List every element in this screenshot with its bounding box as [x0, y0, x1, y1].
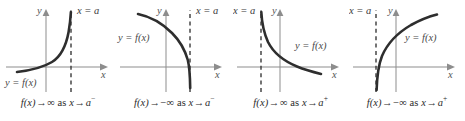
caption-as: as: [410, 97, 419, 108]
caption-arrow-1: →: [149, 97, 161, 108]
caption-arrow-1: →: [268, 97, 280, 108]
y-axis: [163, 9, 170, 92]
caption-arrow-2: →: [74, 97, 86, 108]
asymptote-label: x = a: [349, 5, 371, 16]
x-axis-label: x: [214, 69, 220, 80]
panel-4-caption: f(x)→−∞ as x→a+: [349, 94, 465, 108]
caption-limit: ∞: [47, 97, 55, 108]
panel-4-plot: y x x = a y = f(x): [349, 0, 465, 93]
function-curve: [17, 12, 71, 72]
y-axis-label: y: [271, 5, 277, 16]
panel-2-caption: f(x)→−∞ as x→a−: [116, 94, 232, 108]
x-axis: [120, 63, 222, 70]
x-axis: [353, 63, 455, 70]
caption-fx: f(x): [367, 97, 382, 108]
x-axis: [6, 63, 108, 70]
caption-as: as: [290, 97, 299, 108]
caption-fx: f(x): [253, 97, 268, 108]
x-axis: [237, 63, 339, 70]
panel-2: y x x = a y = f(x) f(x)→−∞ as x→a−: [116, 0, 232, 121]
caption-fx: f(x): [21, 97, 36, 108]
panel-4: y x x = a y = f(x) f(x)→−∞ as x→a+: [349, 0, 465, 121]
panel-3-plot: y x x = a y = f(x): [233, 0, 349, 93]
asymptote-label: x = a: [233, 5, 255, 16]
asymptote-label: x = a: [195, 5, 218, 16]
y-axis-label: y: [156, 5, 162, 16]
caption-arrow-2: →: [193, 97, 205, 108]
x-axis-label: x: [447, 69, 453, 80]
y-axis: [393, 9, 400, 92]
caption-sign: +: [324, 94, 328, 103]
caption-arrow-1: →: [382, 97, 394, 108]
function-label: y = f(x): [4, 77, 37, 89]
caption-as: as: [58, 97, 67, 108]
panel-2-plot: y x x = a y = f(x): [116, 0, 232, 93]
panel-3: y x x = a y = f(x) f(x)→∞ as x→a+: [233, 0, 349, 121]
caption-sign: −: [210, 94, 214, 103]
y-axis-label: y: [387, 5, 393, 16]
function-curve: [138, 14, 190, 88]
caption-arrow-1: →: [36, 97, 48, 108]
x-axis-label: x: [331, 69, 337, 80]
caption-arrow-2: →: [307, 97, 319, 108]
panel-1-caption: f(x)→∞ as x→a−: [0, 94, 116, 108]
caption-limit: ∞: [280, 97, 288, 108]
caption-arrow-2: →: [426, 97, 438, 108]
panel-1: y x x = a y = f(x) f(x)→∞ as x→a−: [0, 0, 116, 121]
asymptote-label: x = a: [76, 5, 99, 16]
panel-3-caption: f(x)→∞ as x→a+: [233, 94, 349, 108]
caption-limit: −∞: [393, 97, 407, 108]
panel-1-plot: y x x = a y = f(x): [0, 0, 116, 93]
asymptote-figure: y x x = a y = f(x) f(x)→∞ as x→a−: [0, 0, 465, 121]
y-axis: [43, 9, 50, 92]
function-curve: [377, 15, 437, 91]
caption-as: as: [177, 97, 186, 108]
caption-x: x: [302, 97, 307, 108]
y-axis: [276, 9, 283, 92]
function-label: y = f(x): [404, 32, 437, 44]
caption-fx: f(x): [134, 97, 149, 108]
x-axis-label: x: [100, 69, 106, 80]
y-axis-label: y: [36, 5, 42, 16]
caption-limit: −∞: [161, 97, 175, 108]
function-label: y = f(x): [117, 32, 150, 44]
function-label: y = f(x): [294, 40, 327, 52]
caption-sign: +: [443, 94, 447, 103]
caption-sign: −: [91, 94, 95, 103]
